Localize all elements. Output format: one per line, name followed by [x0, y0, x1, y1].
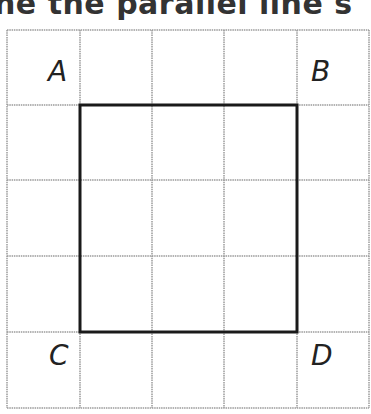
square-abcd [80, 105, 297, 332]
point-label-a: A [48, 58, 67, 86]
point-label-d: D [311, 342, 333, 370]
point-label-b: B [311, 58, 330, 86]
point-label-c: C [49, 342, 69, 370]
